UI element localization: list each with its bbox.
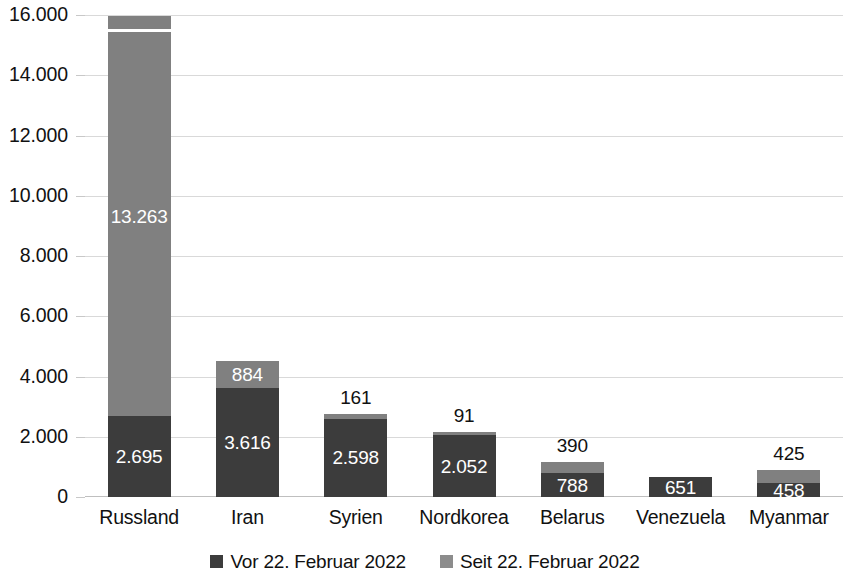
gridline bbox=[85, 196, 843, 197]
y-axis-tick-mark bbox=[76, 497, 85, 498]
x-axis-category-label: Belarus bbox=[518, 508, 626, 528]
bar-segment-seit[interactable]: 91 bbox=[433, 432, 496, 435]
y-axis-tick-mark bbox=[76, 136, 85, 137]
chart-legend: Vor 22. Februar 2022 Seit 22. Februar 20… bbox=[0, 552, 850, 571]
legend-item-vor: Vor 22. Februar 2022 bbox=[210, 552, 406, 571]
bar-segment-vor[interactable]: 458 bbox=[757, 483, 820, 497]
y-axis-tick-label: 0 bbox=[57, 487, 68, 507]
legend-label-seit: Seit 22. Februar 2022 bbox=[460, 552, 640, 571]
x-axis-category-label: Nordkorea bbox=[410, 508, 518, 528]
y-axis: 02.0004.0006.0008.00010.00012.00014.0001… bbox=[0, 0, 74, 510]
bar-value-label-vor: 2.598 bbox=[332, 448, 379, 467]
bar-segment-vor[interactable]: 651 bbox=[649, 477, 712, 497]
y-axis-tick-mark bbox=[76, 316, 85, 317]
bar-segment-vor[interactable]: 2.695 bbox=[108, 416, 171, 497]
x-axis-category-label: Russland bbox=[85, 508, 193, 528]
gridline bbox=[85, 377, 843, 378]
bar-stack-belarus[interactable]: 788390 bbox=[541, 462, 604, 497]
x-axis-category-label: Venezuela bbox=[626, 508, 734, 528]
x-axis-category-label: Syrien bbox=[302, 508, 410, 528]
legend-label-vor: Vor 22. Februar 2022 bbox=[230, 552, 406, 571]
y-axis-tick-mark bbox=[76, 75, 85, 76]
bar-stack-iran[interactable]: 3.616884 bbox=[216, 361, 279, 497]
bar-value-label-vor: 2.052 bbox=[441, 457, 488, 476]
bar-stack-nordkorea[interactable]: 2.05291 bbox=[433, 432, 496, 497]
bar-value-label-seit: 13.263 bbox=[111, 207, 168, 226]
gridline bbox=[85, 75, 843, 76]
bar-value-label-vor: 2.695 bbox=[116, 447, 163, 466]
bar-segment-seit[interactable]: 13.263 bbox=[108, 16, 171, 416]
bar-value-label-seit: 425 bbox=[773, 444, 804, 463]
gridline bbox=[85, 316, 843, 317]
y-axis-tick-mark bbox=[76, 377, 85, 378]
gridline bbox=[85, 15, 843, 16]
gridline bbox=[85, 256, 843, 257]
legend-item-seit: Seit 22. Februar 2022 bbox=[440, 552, 640, 571]
legend-swatch-icon-light bbox=[440, 555, 453, 568]
bar-segment-vor[interactable]: 788 bbox=[541, 473, 604, 497]
bar-stack-syrien[interactable]: 2.598161 bbox=[324, 414, 387, 497]
y-axis-tick-label: 8.000 bbox=[20, 246, 68, 266]
y-axis-tick-mark bbox=[76, 437, 85, 438]
y-axis-tick-label: 10.000 bbox=[9, 186, 68, 206]
y-axis-tick-mark bbox=[76, 256, 85, 257]
bar-segment-vor[interactable]: 3.616 bbox=[216, 388, 279, 497]
bar-segment-seit[interactable]: 884 bbox=[216, 361, 279, 388]
y-axis-tick-label: 16.000 bbox=[9, 5, 68, 25]
y-axis-tick-label: 6.000 bbox=[20, 306, 68, 326]
x-axis-category-label: Iran bbox=[193, 508, 301, 528]
bar-stack-venezuela[interactable]: 651 bbox=[649, 477, 712, 497]
bar-segment-vor[interactable]: 2.052 bbox=[433, 435, 496, 497]
y-axis-tick-label: 12.000 bbox=[9, 126, 68, 146]
axis-break-marker bbox=[108, 29, 171, 32]
bar-value-label-seit: 884 bbox=[232, 365, 263, 384]
bar-value-label-vor: 3.616 bbox=[224, 433, 271, 452]
bar-segment-seit[interactable]: 390 bbox=[541, 462, 604, 474]
bar-value-label-seit: 390 bbox=[557, 436, 588, 455]
bar-segment-vor[interactable]: 2.598 bbox=[324, 419, 387, 497]
bar-stack-russland[interactable]: 2.69513.263 bbox=[108, 16, 171, 497]
bar-value-label-vor: 788 bbox=[557, 476, 588, 495]
bar-stack-myanmar[interactable]: 458425 bbox=[757, 470, 820, 497]
legend-swatch-icon-dark bbox=[210, 555, 223, 568]
stacked-bar-chart: 02.0004.0006.0008.00010.00012.00014.0001… bbox=[0, 0, 850, 582]
gridline bbox=[85, 136, 843, 137]
y-axis-tick-mark bbox=[76, 196, 85, 197]
y-axis-tick-mark bbox=[76, 15, 85, 16]
x-axis-category-label: Myanmar bbox=[735, 508, 843, 528]
y-axis-tick-label: 2.000 bbox=[20, 427, 68, 447]
bar-value-label-seit: 161 bbox=[340, 388, 371, 407]
bar-value-label-seit: 91 bbox=[454, 406, 475, 425]
plot-area: 2.69513.2633.6168842.5981612.05291788390… bbox=[85, 15, 843, 497]
bar-value-label-vor: 458 bbox=[773, 481, 804, 500]
y-axis-tick-label: 4.000 bbox=[20, 367, 68, 387]
bar-segment-seit[interactable]: 425 bbox=[757, 470, 820, 483]
bar-value-label-vor: 651 bbox=[665, 478, 696, 497]
y-axis-tick-label: 14.000 bbox=[9, 65, 68, 85]
bar-segment-seit[interactable]: 161 bbox=[324, 414, 387, 419]
